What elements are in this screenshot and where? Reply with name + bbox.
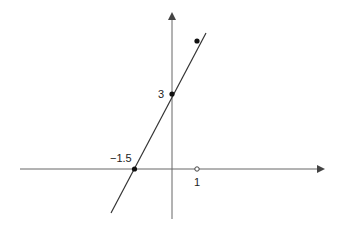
unit-x-label: 1 <box>194 176 200 188</box>
y-intercept-point <box>169 91 174 96</box>
function-line <box>111 33 206 213</box>
x-intercept-label: −1.5 <box>110 152 132 164</box>
point-at-1 <box>194 38 199 43</box>
y-intercept-label: 3 <box>158 88 164 100</box>
x-intercept-point <box>132 166 137 171</box>
unit-mark-open <box>195 167 199 171</box>
graph-canvas: 3 −1.5 1 <box>0 0 338 230</box>
